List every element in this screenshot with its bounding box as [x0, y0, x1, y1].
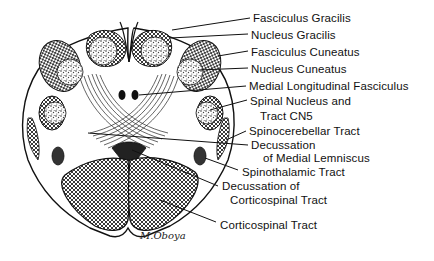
label-fasciculus-gracilis: Fasciculus Gracilis [253, 12, 351, 25]
label-nucleus-cuneatus: Nucleus Cuneatus [251, 63, 347, 76]
spinothalamic-left [52, 147, 64, 165]
mlf-right [132, 90, 139, 100]
spinothalamic-right [194, 147, 206, 165]
nucleus-gracilis-left [89, 37, 117, 65]
label-nucleus-gracilis: Nucleus Gracilis [251, 29, 336, 42]
mlf-left [119, 90, 126, 100]
nucleus-cuneatus-right [177, 59, 203, 85]
corticospinal-right [129, 158, 199, 231]
label-decussation-medial-lemniscus-line1: Decussation [251, 139, 315, 152]
label-spinal-nucleus-cn5-line2: Tract CN5 [260, 110, 313, 123]
label-decussation-corticospinal-line2: Corticospinal Tract [230, 194, 327, 207]
label-spinal-nucleus-cn5-line1: Spinal Nucleus and [250, 95, 351, 108]
label-decussation-medial-lemniscus-line2: of Medial Lemniscus [263, 152, 370, 165]
label-decussation-corticospinal-line1: Decussation of [222, 180, 299, 193]
label-corticospinal-tract: Corticospinal Tract [220, 219, 317, 232]
spinal-nucleus-cn5-left [44, 102, 66, 124]
medulla-diagram [0, 0, 434, 261]
label-medial-longitudinal-fasciculus: Medial Longitudinal Fasciculus [249, 80, 409, 93]
label-spinothalamic-tract: Spinothalamic Tract [242, 166, 345, 179]
nucleus-gracilis-right [141, 37, 169, 65]
label-spinocerebellar-tract: Spinocerebellar Tract [249, 125, 360, 138]
spinal-nucleus-cn5-right [196, 102, 218, 124]
nucleus-cuneatus-left [57, 59, 83, 85]
label-fasciculus-cuneatus: Fasciculus Cuneatus [251, 46, 360, 59]
artist-signature: M.Oboya [140, 230, 186, 241]
